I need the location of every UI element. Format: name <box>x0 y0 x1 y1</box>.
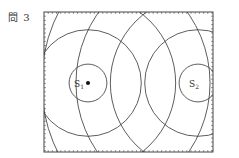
wavefront-s1-4 <box>0 0 210 158</box>
wavefronts <box>0 0 239 158</box>
wavefront-s2-5 <box>42 0 239 158</box>
wavefront-s1-6 <box>0 0 239 158</box>
wavefront-s1-5 <box>0 0 239 158</box>
wave-interference-diagram: S1 S2 <box>0 0 239 158</box>
wavefront-s2-4 <box>76 0 239 158</box>
wavefront-s2-6 <box>7 0 239 158</box>
source-s1-label: S1 <box>74 79 84 90</box>
source-s2-label: S2 <box>189 79 199 90</box>
wavefront-s1-3 <box>0 0 175 158</box>
wavefront-s1-7 <box>0 0 239 158</box>
wavefront-s2-3 <box>110 0 239 158</box>
s1-subscript: 1 <box>80 83 84 90</box>
wavefront-s2-7 <box>0 0 239 158</box>
source-s1-dot <box>86 81 90 85</box>
s2-subscript: 2 <box>195 83 199 90</box>
